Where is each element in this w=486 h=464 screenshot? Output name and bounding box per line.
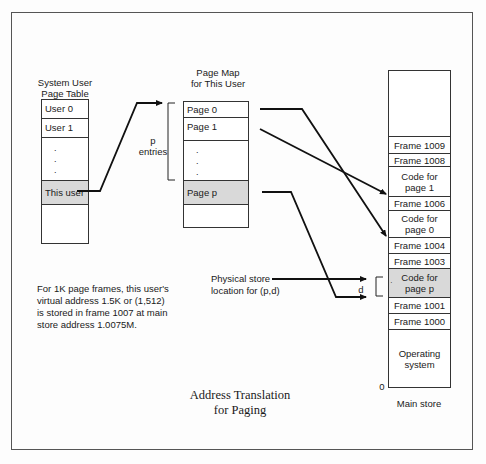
arrow-page-p-to-frame [262, 192, 366, 297]
p-entries-bracket [168, 103, 175, 180]
arrow-page-0-to-frame [260, 109, 386, 236]
arrow-this-user-to-page-map [77, 103, 162, 191]
arrow-page-1-to-frame [260, 129, 386, 194]
connector-arrows [0, 0, 486, 464]
offset-d-bracket [376, 277, 383, 296]
